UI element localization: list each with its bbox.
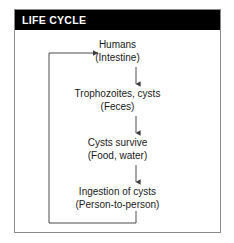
node-trophozoites-primary: Trophozoites, cysts	[75, 88, 161, 99]
node-cysts-survive: Cysts survive (Food, water)	[15, 137, 220, 162]
node-ingestion: Ingestion of cysts (Person-to-person)	[15, 186, 220, 211]
node-ingestion-primary: Ingestion of cysts	[79, 186, 156, 197]
node-humans: Humans (Intestine)	[15, 39, 220, 64]
node-trophozoites: Trophozoites, cysts (Feces)	[15, 88, 220, 113]
node-ingestion-secondary: (Person-to-person)	[15, 199, 220, 212]
node-cysts-survive-primary: Cysts survive	[88, 137, 147, 148]
life-cycle-figure: LIFE CYCLE Humans (Intes	[0, 0, 234, 243]
diagram-panel: LIFE CYCLE Humans (Intes	[14, 9, 221, 233]
node-humans-primary: Humans	[99, 39, 136, 50]
node-cysts-survive-secondary: (Food, water)	[15, 150, 220, 163]
node-trophozoites-secondary: (Feces)	[15, 101, 220, 114]
node-humans-secondary: (Intestine)	[15, 52, 220, 65]
